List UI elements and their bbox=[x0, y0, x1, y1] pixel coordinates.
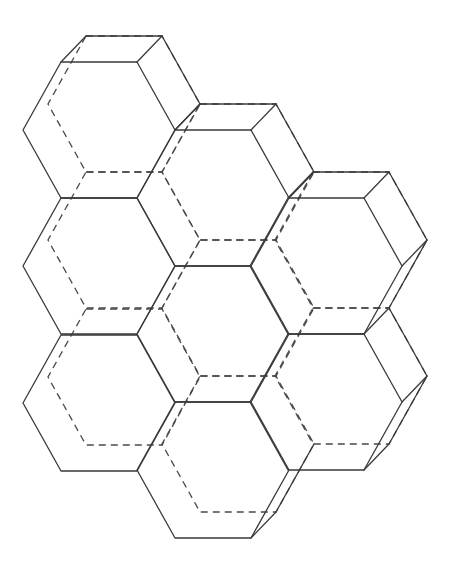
hex-front-face-H bbox=[137, 402, 289, 538]
hex-back-edge-A bbox=[162, 36, 200, 104]
hex-back-edge-F bbox=[389, 308, 427, 376]
hex-depth-edge-C bbox=[364, 172, 389, 198]
hex-back-face-D bbox=[48, 172, 200, 308]
hex-back-face-G bbox=[48, 309, 200, 445]
hex-depth-edge-A bbox=[137, 36, 162, 62]
hex-front-face-F bbox=[250, 334, 402, 470]
hex-back-face-F bbox=[275, 308, 427, 444]
hex-front-face-G bbox=[23, 335, 175, 471]
front-faces bbox=[23, 62, 402, 538]
honeycomb-prism-diagram: Honeycomb of hexagonal prisms (3D wirefr… bbox=[0, 0, 454, 572]
hex-front-face-E bbox=[137, 266, 289, 402]
hex-front-face-A bbox=[23, 62, 175, 198]
hex-depth-edge-B bbox=[289, 172, 314, 198]
hex-front-face-C bbox=[250, 198, 402, 334]
hex-back-edge-C bbox=[389, 172, 427, 240]
hex-front-face-D bbox=[23, 198, 175, 334]
hex-back-face-E bbox=[162, 240, 314, 376]
hex-back-face-H bbox=[162, 376, 314, 512]
hex-back-face-B bbox=[162, 104, 314, 240]
hex-depth-edge-B bbox=[251, 104, 276, 130]
hex-back-edge-C bbox=[389, 240, 427, 308]
hex-back-edge-B bbox=[276, 104, 314, 172]
visible-depth-edges bbox=[61, 36, 427, 538]
hex-back-face-A bbox=[48, 36, 200, 172]
hex-back-edge-H bbox=[276, 444, 314, 512]
hex-front-face-B bbox=[137, 130, 289, 266]
hidden-back-faces bbox=[48, 36, 427, 512]
hex-back-edge-F bbox=[389, 376, 427, 444]
hex-back-face-C bbox=[275, 172, 427, 308]
